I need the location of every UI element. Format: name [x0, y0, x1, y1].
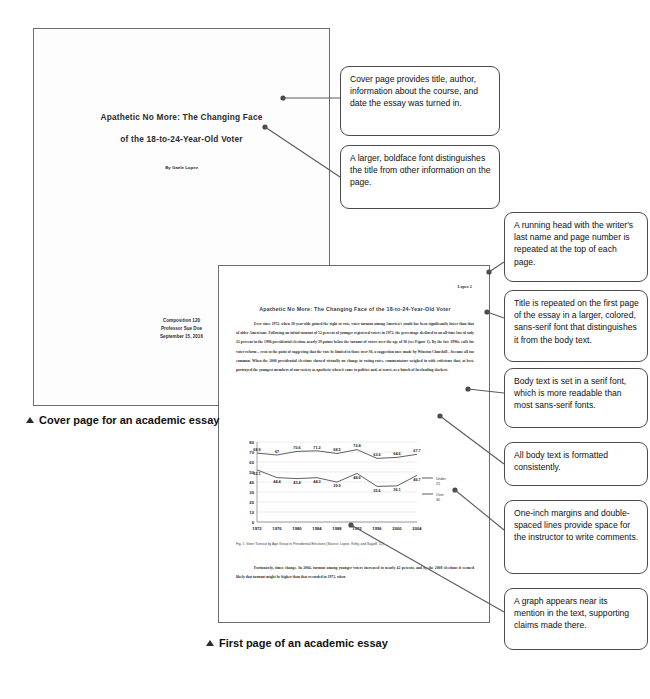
- callout-consistent-format-note: All body text is formatted consistently.: [504, 442, 648, 486]
- cover-title-line-2: of the 18-to-24-Year-Old Voter: [34, 129, 329, 151]
- cover-page-caption: Cover page for an academic essay: [26, 413, 221, 428]
- callout-text: A larger, boldface font distinguishes th…: [350, 153, 490, 187]
- chart-data-label: 68.5: [333, 448, 340, 452]
- chart-data-label: 39.9: [333, 484, 340, 488]
- chart-svg: 0102030405060708019721976198019841988199…: [235, 436, 475, 540]
- chart-data-label: 72.4: [353, 444, 361, 448]
- callout-text: One-inch margins and double-spaced lines…: [514, 508, 638, 542]
- chart-data-label: 67: [275, 450, 279, 454]
- chart-x-tick-label: 2004: [412, 526, 422, 531]
- chart-y-tick-label: 10: [249, 510, 254, 515]
- callout-title-repeat-note: Title is repeated on the first page of t…: [504, 290, 648, 362]
- chart-y-tick-label: 30: [249, 490, 254, 495]
- callout-text: A running head with the writer's last na…: [514, 220, 633, 267]
- chart-x-tick-label: 1980: [292, 526, 302, 531]
- chart-data-label: 48.6: [353, 476, 360, 480]
- chart-data-label: 36.1: [393, 488, 400, 492]
- chart-data-label: 35.6: [373, 489, 380, 493]
- chart-data-label: 64.6: [393, 452, 400, 456]
- callout-boldface-font-note: A larger, boldface font distinguishes th…: [340, 145, 500, 209]
- chart-legend-label: Under: [436, 477, 447, 481]
- chart-y-tick-label: 80: [249, 440, 254, 445]
- chart-x-tick-label: 2000: [392, 526, 402, 531]
- cover-author: By Gaele Lopez: [34, 165, 329, 170]
- callout-serif-body-note: Body text is set in a serif font, which …: [504, 368, 648, 428]
- essay-title: Apathetic No More: The Changing Face of …: [235, 306, 475, 312]
- chart-data-label: 71.2: [313, 446, 320, 450]
- callout-running-head-note: A running head with the writer's last na…: [504, 212, 648, 282]
- triangle-marker-icon: [206, 640, 214, 646]
- callout-text: Body text is set in a serif font, which …: [514, 376, 626, 410]
- callout-text: Title is repeated on the first page of t…: [514, 298, 639, 345]
- chart-data-label: 43.4: [293, 481, 301, 485]
- essay-page-caption: First page of an academic essay: [206, 636, 436, 651]
- chart-x-tick-label: 1984: [312, 526, 322, 531]
- callout-text: Cover page provides title, author, infor…: [350, 74, 478, 108]
- chart-y-tick-label: 20: [249, 500, 254, 505]
- chart-x-tick-label: 1996: [372, 526, 382, 531]
- callout-text: A graph appears near its mention in the …: [514, 596, 629, 630]
- chart-y-tick-label: 60: [249, 460, 254, 465]
- chart-x-tick-label: 1988: [332, 526, 342, 531]
- triangle-marker-icon: [26, 417, 34, 423]
- cover-page-title: Apathetic No More: The Changing Face of …: [34, 107, 329, 150]
- callout-cover-title-author-note: Cover page provides title, author, infor…: [340, 66, 500, 136]
- essay-paragraph-2: Fortunately, times change. In 2004, turn…: [236, 564, 474, 582]
- chart-data-label: 68.9: [253, 448, 260, 452]
- chart-data-label: 70.6: [293, 446, 300, 450]
- chart-data-label: 52.1: [253, 472, 260, 476]
- chart-data-label: 44.3: [313, 480, 320, 484]
- voter-turnout-chart: 0102030405060708019721976198019841988199…: [235, 436, 475, 540]
- callout-margins-spacing-note: One-inch margins and double-spaced lines…: [504, 500, 648, 574]
- chart-y-tick-label: 40: [249, 480, 254, 485]
- figure-canvas: Apathetic No More: The Changing Face of …: [0, 0, 650, 699]
- chart-y-tick-label: 0: [252, 520, 255, 525]
- chart-data-label: 46.7: [413, 478, 420, 482]
- cover-page-caption-text: Cover page for an academic essay: [39, 414, 219, 426]
- running-head: Lopez 2: [458, 284, 472, 289]
- chart-legend-label: 30: [436, 498, 440, 502]
- chart-x-tick-label: 1972: [252, 526, 262, 531]
- figure-caption: Fig. 1. Voter Turnout by Age Group in Pr…: [236, 542, 474, 546]
- essay-page-caption-text: First page of an academic essay: [219, 637, 388, 649]
- chart-legend-label: Over: [436, 493, 445, 497]
- essay-paragraph-1: Ever since 1972, when 18-year-olds gaine…: [236, 320, 474, 375]
- chart-x-tick-label: 1992: [352, 526, 362, 531]
- chart-data-label: 63.6: [373, 453, 380, 457]
- essay-first-page-document: Lopez 2 Apathetic No More: The Changing …: [218, 265, 490, 623]
- cover-title-line-1: Apathetic No More: The Changing Face: [34, 107, 329, 129]
- chart-legend-label: 25: [436, 482, 440, 486]
- callout-text: All body text is formatted consistently.: [514, 450, 608, 472]
- leader-line: [489, 262, 504, 272]
- chart-data-label: 67.7: [413, 449, 420, 453]
- chart-data-label: 44.4: [273, 480, 281, 484]
- chart-x-tick-label: 1976: [272, 526, 282, 531]
- callout-graph-placement-note: A graph appears near its mention in the …: [504, 588, 648, 650]
